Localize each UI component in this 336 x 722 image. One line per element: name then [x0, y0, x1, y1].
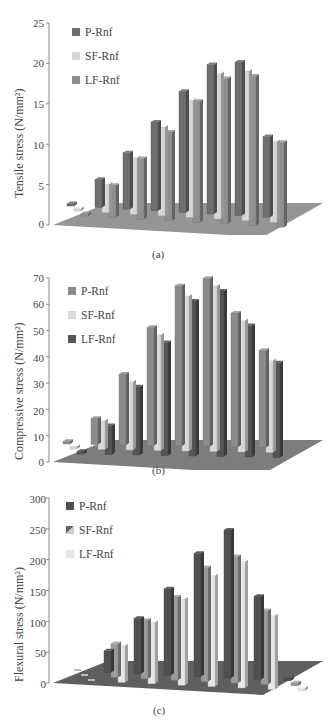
chart-c-plot [0, 490, 336, 722]
legend-swatch-icon [68, 287, 76, 295]
legend-swatch-icon [72, 28, 80, 36]
tick: 150 [16, 586, 46, 598]
tick: 15 [14, 98, 44, 110]
chart-panel-c: Flexural stress (N/mm²) 300 250 200 150 … [0, 490, 336, 722]
tick: 20 [14, 405, 44, 417]
legend-item-sf-rnf: SF-Rnf [68, 303, 116, 327]
tick: 30 [14, 378, 44, 390]
chart-b-plot [0, 265, 336, 470]
tick: 0 [14, 456, 44, 468]
legend-item-p-rnf: P-Rnf [68, 279, 116, 303]
legend-item-p-rnf: P-Rnf [72, 20, 120, 44]
chart-panel-b: Compressive stress (N/mm²) 70 60 50 40 3… [0, 265, 336, 470]
tick: 20 [14, 57, 44, 69]
tick: 300 [16, 493, 46, 505]
tick: 60 [14, 298, 44, 310]
tick: 50 [16, 647, 46, 659]
legend-swatch-icon [66, 550, 74, 558]
legend-swatch-icon [72, 76, 80, 84]
legend-item-lf-rnf: LF-Rnf [72, 68, 120, 92]
chart-b-legend: P-Rnf SF-Rnf LF-Rnf [68, 279, 116, 351]
tick: 10 [14, 139, 44, 151]
legend-swatch-icon [66, 502, 74, 510]
tick: 250 [16, 524, 46, 536]
tick: 10 [14, 431, 44, 443]
tick: 70 [14, 272, 44, 284]
chart-a-caption: (a) [152, 248, 164, 260]
chart-b-caption: (b) [152, 464, 165, 476]
tick: 50 [14, 325, 44, 337]
tick: 200 [16, 555, 46, 567]
tick: 100 [16, 617, 46, 629]
tick: 0 [14, 218, 44, 230]
legend-swatch-icon [66, 526, 74, 534]
tick: 40 [14, 352, 44, 364]
legend-item-lf-rnf: LF-Rnf [68, 327, 116, 351]
legend-item-lf-rnf: LF-Rnf [66, 542, 114, 566]
legend-item-sf-rnf: SF-Rnf [66, 518, 114, 542]
chart-a-plot [0, 0, 336, 235]
chart-c-caption: (c) [153, 704, 165, 716]
legend-item-p-rnf: P-Rnf [66, 494, 114, 518]
tick: 25 [14, 17, 44, 29]
legend-swatch-icon [72, 52, 80, 60]
legend-swatch-icon [68, 311, 76, 319]
chart-panel-a: Tensile stress (N/mm²) 25 20 15 10 5 0 P… [0, 0, 336, 235]
chart-a-legend: P-Rnf SF-Rnf LF-Rnf [72, 20, 120, 92]
chart-c-legend: P-Rnf SF-Rnf LF-Rnf [66, 494, 114, 566]
tick: 0 [16, 678, 46, 690]
legend-swatch-icon [68, 335, 76, 343]
legend-item-sf-rnf: SF-Rnf [72, 44, 120, 68]
tick: 5 [14, 180, 44, 192]
